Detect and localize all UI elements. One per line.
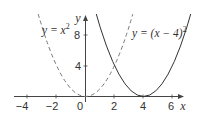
y-axis-arrow-icon [83,15,88,21]
curve-label-exponent: 2 [66,22,70,31]
x-axis-label: x [179,99,186,113]
x-tick-label: 0 [77,100,83,112]
y-axis: 8 4 y [74,11,88,102]
x-tick-label: −4 [16,100,29,112]
x-axis: −4 −2 0 2 4 6 x [14,94,186,113]
parabola-chart: −4 −2 0 2 4 6 x 8 4 y y = x2 y = (x − 4)… [0,0,200,115]
y-tick-label: 4 [75,60,81,72]
curve-y-equals-x-minus-4-squared [94,7,193,97]
x-tick-label: 2 [111,100,117,112]
x-tick-label: 4 [140,100,146,112]
x-tick-label: 6 [168,100,174,112]
curve-label-exponent: 2 [183,25,187,34]
curve-label-main: y = x [41,24,67,37]
x-tick-label: −2 [46,100,59,112]
y-tick-label: 8 [74,29,80,41]
curve-label-x-minus-4-squared: y = (x − 4)2 [131,25,187,40]
curve-label-main: y = (x − 4) [131,27,183,40]
curve-label-x-squared: y = x2 [41,22,70,37]
